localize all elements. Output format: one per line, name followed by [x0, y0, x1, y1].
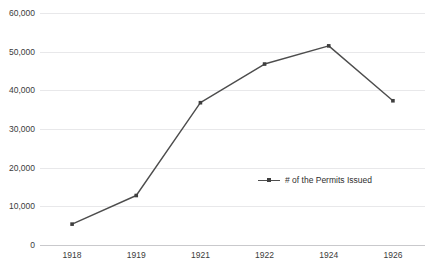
data-series-layer	[0, 0, 436, 271]
data-point-marker	[327, 44, 331, 48]
series-line	[72, 46, 393, 224]
data-point-marker	[134, 194, 138, 198]
data-point-marker	[391, 99, 395, 103]
legend-label-permits: # of the Permits Issued	[285, 176, 372, 185]
legend-marker	[267, 178, 271, 182]
line-marker-swatch	[258, 176, 280, 184]
data-point-marker	[70, 222, 74, 226]
chart-legend: # of the Permits Issued	[258, 176, 372, 185]
line-chart: 60,00050,00040,00030,00020,00010,0000 19…	[0, 0, 436, 271]
data-point-marker	[199, 101, 203, 105]
data-point-marker	[263, 62, 267, 66]
